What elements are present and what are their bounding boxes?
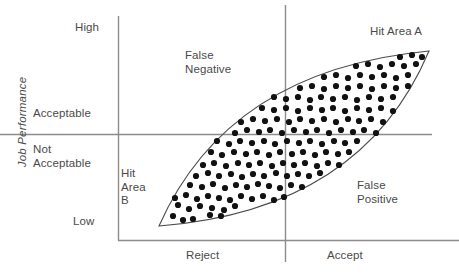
data-point [405, 72, 411, 78]
data-point [208, 149, 214, 155]
data-point [186, 206, 192, 212]
data-point [354, 105, 360, 111]
data-point [323, 149, 329, 155]
data-point [330, 96, 336, 102]
x-tick-reject: Reject [186, 249, 219, 263]
data-point [300, 149, 306, 155]
data-point [291, 162, 297, 168]
data-point [175, 202, 181, 208]
data-point [246, 162, 252, 168]
data-point [393, 75, 399, 81]
data-point [183, 192, 189, 198]
data-point [319, 107, 325, 113]
data-point [266, 152, 272, 158]
data-point [232, 203, 238, 209]
data-point [365, 61, 371, 67]
data-point [279, 130, 285, 136]
data-point [288, 182, 294, 188]
data-point [314, 163, 320, 169]
data-point [261, 173, 267, 179]
data-point [227, 197, 233, 203]
data-point [318, 94, 324, 100]
data-point [295, 94, 301, 100]
label-hit-area-b: Hit Area B [121, 167, 146, 208]
data-point [401, 63, 407, 69]
data-point [277, 149, 283, 155]
data-point [330, 105, 336, 111]
data-point [373, 130, 379, 136]
data-point [353, 63, 359, 69]
data-point [317, 170, 323, 176]
data-point [260, 193, 266, 199]
data-point [239, 174, 245, 180]
data-point [259, 105, 265, 111]
data-point [295, 108, 301, 114]
data-point [257, 160, 263, 166]
data-point [333, 72, 339, 78]
label-false-positive: False Positive [357, 179, 398, 206]
axis-lines [0, 5, 459, 262]
data-point [223, 163, 229, 169]
data-point [280, 160, 286, 166]
data-point [413, 61, 419, 67]
data-point [272, 141, 278, 147]
data-point [200, 162, 206, 168]
data-point [350, 129, 356, 135]
data-point [307, 105, 313, 111]
data-point [338, 127, 344, 133]
data-point [389, 61, 395, 67]
data-point [266, 183, 272, 189]
data-point [312, 152, 318, 158]
data-point [277, 185, 283, 191]
data-point [283, 105, 289, 111]
data-point [244, 184, 250, 190]
data-point [262, 118, 268, 124]
data-point [393, 85, 399, 91]
data-point [193, 173, 199, 179]
data-point [205, 170, 211, 176]
data-point [271, 197, 277, 203]
data-point [271, 107, 277, 113]
data-point [289, 151, 295, 157]
data-point [346, 149, 352, 155]
data-point [381, 72, 387, 78]
data-point [356, 118, 362, 124]
data-point [269, 163, 275, 169]
data-point [249, 140, 255, 146]
data-point [405, 83, 411, 89]
data-point [302, 160, 308, 166]
data-point [342, 140, 348, 146]
data-point [267, 127, 273, 133]
data-point [321, 116, 327, 122]
data-point [314, 127, 320, 133]
data-point [319, 141, 325, 147]
data-point [333, 119, 339, 125]
y-tick-high: High [75, 21, 99, 35]
data-point [250, 116, 256, 122]
y-tick-acceptable: Acceptable [33, 107, 91, 121]
data-point [261, 138, 267, 144]
data-point [187, 182, 193, 188]
data-point [250, 171, 256, 177]
x-tick-accept: Accept [327, 249, 363, 263]
data-point [218, 213, 224, 219]
data-point [342, 108, 348, 114]
data-point [296, 140, 302, 146]
data-point [235, 160, 241, 166]
data-point [345, 75, 351, 81]
data-point [197, 203, 203, 209]
data-point [378, 105, 384, 111]
data-point [238, 119, 244, 125]
data-point [214, 138, 220, 144]
data-point [357, 83, 363, 89]
data-point [297, 85, 303, 91]
data-point [303, 129, 309, 135]
data-point [336, 162, 342, 168]
label-hit-area-a: Hit Area A [370, 25, 422, 39]
data-point [321, 74, 327, 80]
data-point [378, 96, 384, 102]
data-point [190, 216, 196, 222]
data-point [354, 97, 360, 103]
data-point [205, 193, 211, 199]
data-point [274, 116, 280, 122]
